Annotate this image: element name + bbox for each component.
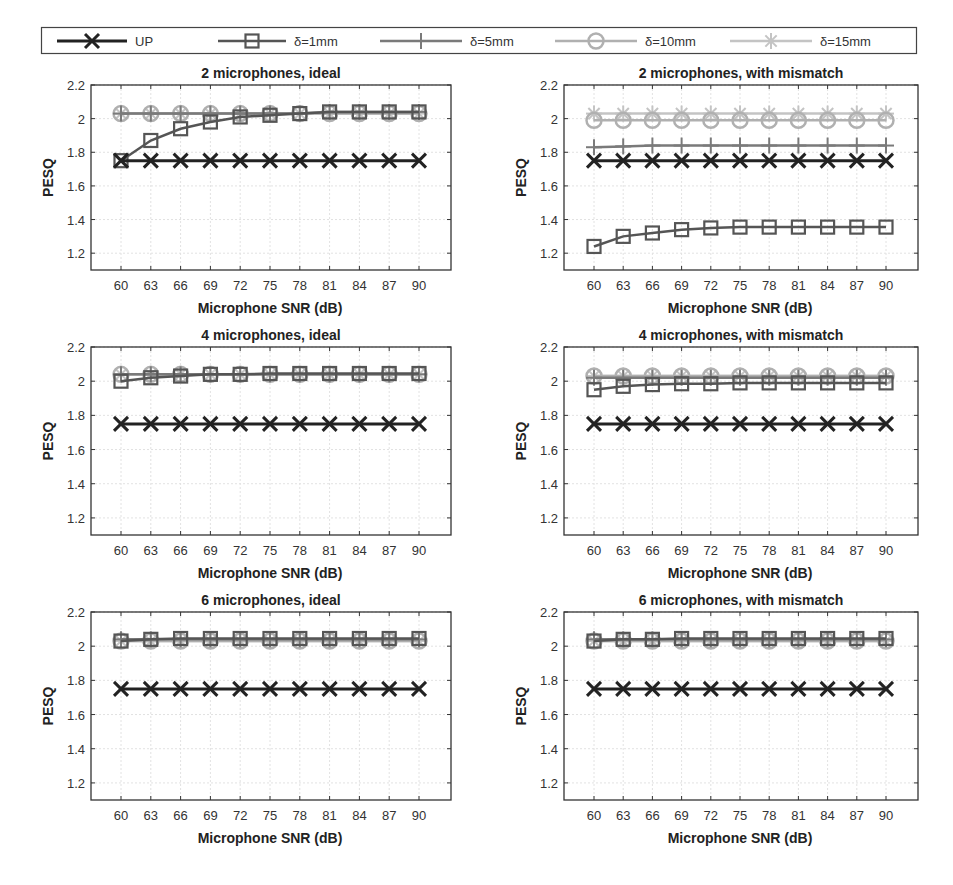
subplot: 60636669727578818487901.21.41.61.822.26 … (513, 592, 918, 846)
subplot: 60636669727578818487901.21.41.61.822.22 … (40, 65, 451, 316)
x-tick-label: 90 (412, 543, 426, 558)
x-tick-label: 63 (616, 808, 630, 823)
figure: UPδ=1mmδ=5mmδ=10mmδ=15mm 606366697275788… (0, 0, 953, 885)
legend: UPδ=1mmδ=5mmδ=10mmδ=15mm (42, 28, 917, 54)
x-tick-label: 66 (645, 808, 659, 823)
y-tick-label: 2.2 (67, 605, 85, 620)
x-tick-label: 75 (263, 808, 277, 823)
y-tick-label: 1.2 (540, 511, 558, 526)
y-tick-label: 1.4 (540, 742, 558, 757)
x-tick-label: 72 (233, 808, 247, 823)
x-tick-label: 81 (322, 543, 336, 558)
y-tick-label: 1.4 (540, 213, 558, 228)
y-tick-label: 2.2 (67, 340, 85, 355)
x-tick-label: 78 (293, 808, 307, 823)
x-tick-label: 90 (412, 278, 426, 293)
x-tick-label: 87 (850, 543, 864, 558)
x-tick-label: 69 (203, 543, 217, 558)
y-tick-label: 2 (78, 112, 85, 127)
y-axis-title: PESQ (513, 421, 529, 460)
y-tick-label: 2 (551, 374, 558, 389)
x-tick-label: 69 (674, 543, 688, 558)
x-tick-label: 81 (791, 543, 805, 558)
y-tick-label: 1.6 (540, 179, 558, 194)
x-tick-label: 75 (733, 808, 747, 823)
x-tick-label: 69 (674, 808, 688, 823)
y-tick-label: 1.8 (67, 673, 85, 688)
x-tick-label: 72 (704, 808, 718, 823)
x-tick-label: 84 (352, 278, 366, 293)
legend-label: δ=5mm (470, 34, 514, 49)
x-tick-label: 63 (616, 278, 630, 293)
x-tick-label: 60 (114, 808, 128, 823)
y-tick-label: 1.8 (540, 408, 558, 423)
x-tick-label: 90 (879, 278, 893, 293)
y-tick-label: 1.8 (67, 145, 85, 160)
y-tick-label: 1.6 (540, 443, 558, 458)
x-tick-label: 63 (144, 808, 158, 823)
y-tick-label: 1.2 (67, 776, 85, 791)
x-tick-label: 72 (233, 278, 247, 293)
x-tick-label: 84 (352, 808, 366, 823)
x-tick-label: 78 (293, 543, 307, 558)
legend-label: δ=15mm (820, 34, 871, 49)
y-tick-label: 1.4 (67, 742, 85, 757)
x-tick-label: 60 (114, 543, 128, 558)
x-tick-label: 69 (674, 278, 688, 293)
subplot: 60636669727578818487901.21.41.61.822.24 … (513, 327, 918, 581)
y-tick-label: 1.8 (540, 145, 558, 160)
x-axis-title: Microphone SNR (dB) (668, 830, 813, 846)
x-axis-title: Microphone SNR (dB) (668, 565, 813, 581)
x-tick-label: 87 (382, 808, 396, 823)
y-axis-title: PESQ (40, 421, 56, 460)
y-tick-label: 2 (78, 374, 85, 389)
subplot: 60636669727578818487901.21.41.61.822.24 … (40, 327, 451, 581)
x-tick-label: 84 (352, 543, 366, 558)
x-tick-label: 90 (879, 808, 893, 823)
subplot-title: 2 microphones, ideal (201, 65, 340, 81)
y-tick-label: 2 (551, 112, 558, 127)
subplot-title: 4 microphones, ideal (201, 327, 340, 343)
y-tick-label: 2.2 (540, 605, 558, 620)
x-tick-label: 60 (587, 543, 601, 558)
x-tick-label: 66 (645, 543, 659, 558)
x-axis-title: Microphone SNR (dB) (198, 830, 343, 846)
x-tick-label: 75 (733, 543, 747, 558)
y-axis-title: PESQ (513, 158, 529, 197)
y-tick-label: 1.6 (67, 708, 85, 723)
x-tick-label: 87 (382, 543, 396, 558)
x-tick-label: 75 (263, 278, 277, 293)
x-tick-label: 69 (203, 278, 217, 293)
y-tick-label: 1.4 (67, 213, 85, 228)
y-axis-title: PESQ (513, 686, 529, 725)
x-tick-label: 78 (293, 278, 307, 293)
y-tick-label: 2.2 (540, 340, 558, 355)
y-tick-label: 1.2 (67, 511, 85, 526)
y-tick-label: 1.2 (67, 246, 85, 261)
y-axis-title: PESQ (40, 686, 56, 725)
y-tick-label: 1.4 (67, 477, 85, 492)
x-tick-label: 87 (382, 278, 396, 293)
y-tick-label: 1.2 (540, 246, 558, 261)
x-tick-label: 63 (616, 543, 630, 558)
x-tick-label: 63 (144, 278, 158, 293)
legend-label: δ=10mm (645, 34, 696, 49)
x-axis-title: Microphone SNR (dB) (198, 300, 343, 316)
subplot-title: 6 microphones, with mismatch (639, 592, 844, 608)
x-tick-label: 66 (645, 278, 659, 293)
x-tick-label: 66 (173, 278, 187, 293)
x-tick-label: 84 (820, 543, 834, 558)
x-tick-label: 81 (322, 278, 336, 293)
x-tick-label: 66 (173, 543, 187, 558)
y-tick-label: 2.2 (540, 78, 558, 93)
x-tick-label: 66 (173, 808, 187, 823)
x-tick-label: 90 (879, 543, 893, 558)
subplot: 60636669727578818487901.21.41.61.822.26 … (40, 592, 451, 846)
x-tick-label: 87 (850, 278, 864, 293)
y-tick-label: 1.4 (540, 477, 558, 492)
x-tick-label: 81 (791, 808, 805, 823)
subplot: 60636669727578818487901.21.41.61.822.22 … (513, 65, 918, 316)
y-tick-label: 1.8 (67, 408, 85, 423)
x-tick-label: 63 (144, 543, 158, 558)
subplot-grid: 60636669727578818487901.21.41.61.822.22 … (40, 65, 918, 846)
